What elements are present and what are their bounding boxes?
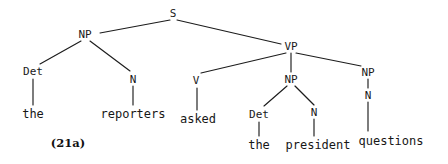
tree-edge [201, 53, 286, 73]
syntax-tree-figure: SNPVPDetNVNPNPDetNN thereportersaskedthe… [0, 0, 448, 164]
tree-node-np_obj2: NP [361, 66, 374, 79]
tree-terminal-questions: questions [358, 134, 423, 148]
example-number-label: (21a) [51, 136, 85, 150]
tree-node-v: V [193, 74, 200, 87]
tree-node-np_subj: NP [78, 28, 91, 41]
tree-node-vp: VP [284, 40, 297, 53]
tree-edge [295, 86, 314, 105]
tree-terminal-the: the [22, 107, 44, 121]
tree-terminal-president: president [285, 138, 350, 152]
tree-node-s: S [170, 7, 177, 20]
tree-edge [177, 20, 281, 44]
tree-edge [100, 20, 170, 33]
tree-edge [90, 41, 130, 71]
tree-edge [40, 41, 81, 64]
tree-edge [296, 53, 361, 66]
tree-terminal-the: the [248, 138, 270, 152]
tree-node-np_obj: NP [284, 73, 297, 86]
tree-terminal-asked: asked [180, 112, 216, 126]
tree-node-n1: N [130, 73, 137, 86]
tree-node-det2: Det [249, 108, 269, 121]
tree-node-n2: N [311, 106, 318, 119]
tree-edge [264, 86, 287, 106]
tree-terminal-reporters: reporters [100, 107, 165, 121]
tree-node-det1: Det [23, 65, 43, 78]
tree-node-n3: N [365, 89, 372, 102]
